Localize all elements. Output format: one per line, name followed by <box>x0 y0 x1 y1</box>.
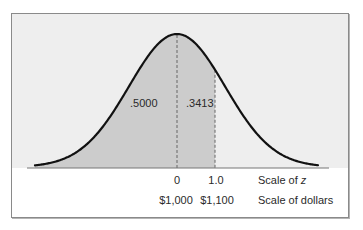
area-label-middle: .3413 <box>186 97 214 110</box>
dollar-tick-1100: $1,100 <box>200 194 234 207</box>
z-scale-label: Scale of z <box>258 174 306 187</box>
dollar-scale-label: Scale of dollars <box>258 194 333 207</box>
z-tick-0: 0 <box>174 174 180 187</box>
area-label-left: .5000 <box>130 97 158 110</box>
z-tick-1: 1.0 <box>208 174 223 187</box>
dollar-tick-1000: $1,000 <box>159 194 193 207</box>
